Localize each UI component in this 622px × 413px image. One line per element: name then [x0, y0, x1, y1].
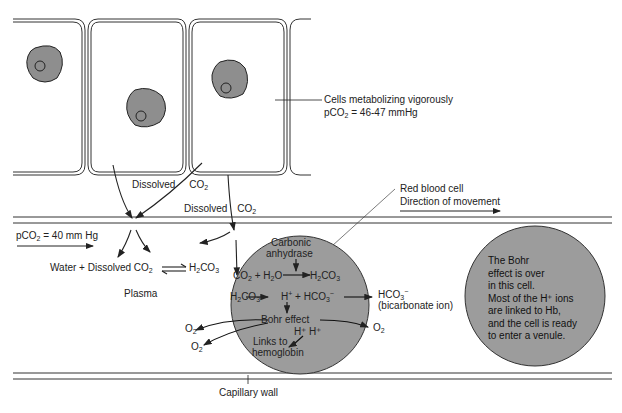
reaction2-products: H+ + HCO3− — [281, 291, 334, 303]
o2-left-2-label: O2 — [191, 341, 203, 353]
bohr-over-note: The Bohr effect is over in this cell. Mo… — [488, 255, 577, 343]
dissolved-co2-label-2: DissolvedCO2 — [184, 203, 256, 215]
anhydrase-label: anhydrase — [266, 248, 313, 260]
o2-left-1-label: O2 — [185, 323, 197, 335]
direction-of-movement-label: Direction of movement — [400, 196, 500, 208]
water-dissolved-co2-label: Water + Dissolved CO2 — [50, 262, 153, 274]
bicarbonate-label: (bicarbonate ion) — [378, 300, 453, 312]
plasma-h2co3-label: H2CO3 — [189, 262, 219, 274]
o2-right-label: O2 — [373, 322, 385, 334]
cell-nuclei — [27, 46, 248, 127]
reaction2-reactant: H2CO3 — [230, 291, 260, 303]
plasma-pco2-label: pCO2 = 40 mm Hg — [16, 230, 98, 242]
capillary-wall-top — [13, 217, 612, 223]
capillary-wall-label: Capillary wall — [219, 387, 278, 399]
capillary-wall-bottom — [13, 373, 612, 379]
bohr-effect-label: Bohr effect — [261, 314, 309, 326]
cells-metabolizing-label: Cells metabolizing vigorously — [324, 94, 453, 106]
h-ions-label: H⁺ H⁺ — [294, 326, 321, 338]
plasma-label: Plasma — [124, 288, 157, 300]
red-blood-cell-label: Red blood cell — [400, 183, 463, 195]
diagram-graphics — [0, 0, 622, 413]
reaction1-reactants: CO2 + H2O — [233, 270, 282, 282]
reaction1-product: H2CO3 — [310, 270, 340, 282]
dissolved-co2-label-1: DissolvedCO2 — [132, 179, 208, 191]
equilibrium-arrows — [162, 264, 186, 274]
cells-pco2-label: pCO2 = 46-47 mmHg — [324, 107, 418, 119]
bohr-effect-diagram: Cells metabolizing vigorously pCO2 = 46-… — [0, 0, 622, 413]
hemoglobin-label: hemoglobin — [252, 347, 304, 359]
